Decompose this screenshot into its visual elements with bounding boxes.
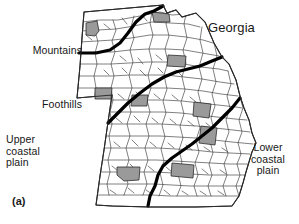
region-label-mountains: Mountains <box>4 45 82 57</box>
highlighted-county <box>171 163 194 178</box>
figure-panel: Mountains Foothills Upper coastal plain … <box>0 0 299 224</box>
highlighted-county <box>193 102 211 118</box>
region-label-foothills: Foothills <box>4 99 82 111</box>
highlighted-county <box>152 12 170 22</box>
region-label-upper-coastal-plain: Upper coastal plain <box>6 134 82 169</box>
highlighted-county <box>95 88 112 99</box>
panel-label: (a) <box>12 195 25 207</box>
state-name-label: Georgia <box>208 22 255 34</box>
highlighted-county <box>86 21 99 36</box>
region-label-lower-coastal-plain: Lower coastal plain <box>240 142 296 177</box>
highlighted-county <box>167 55 186 67</box>
